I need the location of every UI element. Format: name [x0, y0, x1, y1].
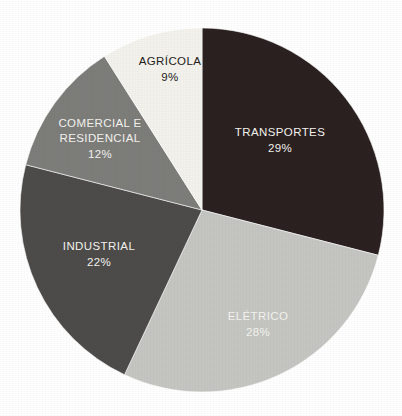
- pie-chart-canvas: [0, 0, 402, 416]
- pie-slices: [20, 28, 384, 392]
- pie-chart: TRANSPORTES 29% ELÉTRICO 28% INDUSTRIAL …: [0, 0, 402, 416]
